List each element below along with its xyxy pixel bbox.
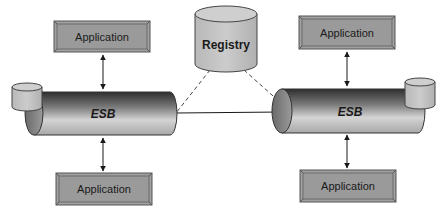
right-application-top-box[interactable]: Application: [299, 16, 395, 49]
registry-left-dashed-link: [176, 70, 210, 113]
left-application-bottom-label: Application: [77, 183, 131, 195]
left-application-top-box[interactable]: Application: [54, 21, 150, 52]
registry-label: Registry: [202, 38, 250, 52]
left-esb-datastore-icon: [12, 83, 42, 111]
right-esb-datastore-icon: [405, 78, 435, 109]
registry-database[interactable]: Registry: [195, 6, 257, 72]
left-application-top-label: Application: [75, 31, 129, 43]
right-esb-label: ESB: [338, 105, 363, 119]
right-application-top-label: Application: [320, 27, 374, 39]
esb-interconnect-line: [176, 112, 282, 113]
right-application-bottom-box[interactable]: Application: [300, 170, 396, 202]
right-application-bottom-label: Application: [321, 180, 375, 192]
left-esb-label: ESB: [91, 107, 116, 121]
esb-diagram: Registry Application ESB Application: [0, 0, 444, 216]
left-application-bottom-box[interactable]: Application: [56, 173, 152, 205]
registry-links: [176, 70, 282, 113]
right-esb-tube[interactable]: ESB: [272, 89, 425, 133]
left-esb-tube[interactable]: ESB: [25, 92, 177, 135]
